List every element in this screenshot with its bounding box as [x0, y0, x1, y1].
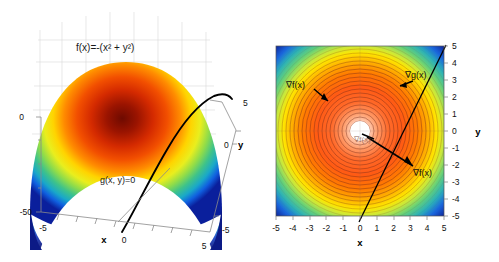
grad-f-upper-label: ∇f(x) [285, 80, 305, 90]
grad-f-lower-label: ∇f(x) [412, 168, 432, 178]
y-tick-label: 3 [452, 75, 457, 85]
grad-f-center-label: ∇f(x) [353, 135, 371, 144]
contour-y-tick-labels: 543210-1-2-3-4-5 [452, 41, 460, 221]
y-tick-min: -5 [222, 225, 230, 235]
y-tick-label: 5 [452, 41, 457, 51]
surface-plot-panel: f(x)=-(x² + y²) g(x, y)=0 0 -50 -5 0 5 x… [0, 0, 250, 262]
z-tick-bottom: -50 [20, 207, 33, 217]
y-tick-label: -5 [452, 211, 460, 221]
x-tick-label: -1 [339, 223, 347, 233]
contour-plot-panel: -5-4-3-2-1012345 543210-1-2-3-4-5 x y ∇f… [250, 0, 499, 262]
x-tick-label: -3 [306, 223, 314, 233]
figure-root: f(x)=-(x² + y²) g(x, y)=0 0 -50 -5 0 5 x… [0, 0, 499, 262]
y-tick-label: -4 [452, 194, 460, 204]
x-tick-label: 3 [408, 223, 413, 233]
x-tick-label: -4 [289, 223, 297, 233]
grad-g-label: ∇g(x) [404, 70, 427, 80]
x-tick-label: 5 [442, 223, 447, 233]
x-tick-label: 1 [374, 223, 379, 233]
surface-plot-svg: f(x)=-(x² + y²) g(x, y)=0 0 -50 -5 0 5 x… [0, 0, 250, 262]
y-tick-mid: 0 [224, 140, 229, 150]
contour-x-tick-labels: -5-4-3-2-1012345 [272, 223, 446, 233]
y-tick-label: 4 [452, 58, 457, 68]
x-tick-label: -5 [272, 223, 280, 233]
x-tick-label: 4 [425, 223, 430, 233]
contour-x-ticks [276, 216, 444, 220]
y-tick-label: 2 [452, 92, 457, 102]
x-tick-label: 0 [358, 223, 363, 233]
z-tick-top: 0 [19, 112, 24, 122]
y-tick-label: -1 [452, 143, 460, 153]
y-tick-label: 0 [452, 126, 457, 136]
y-axis-label-3d: y [238, 139, 244, 150]
x-axis-label-3d: x [101, 234, 107, 245]
y-axis-label-2d: y [475, 126, 481, 137]
y-tick-label: 1 [452, 109, 457, 119]
x-axis-label-2d: x [357, 237, 363, 248]
x-tick-label: -2 [323, 223, 331, 233]
contour-y-ticks [444, 46, 448, 216]
y-tick-max: 5 [243, 98, 248, 108]
x-tick-min: -5 [39, 223, 47, 233]
contour-plot-svg: -5-4-3-2-1012345 543210-1-2-3-4-5 x y ∇f… [250, 0, 499, 262]
x-tick-label: 2 [391, 223, 396, 233]
x-tick-mid: 0 [122, 235, 127, 245]
surface-equation-label: f(x)=-(x² + y²) [76, 42, 134, 53]
y-tick-label: -2 [452, 160, 460, 170]
x-tick-max: 5 [202, 241, 207, 251]
constraint-label-3d: g(x, y)=0 [100, 175, 135, 185]
y-tick-label: -3 [452, 177, 460, 187]
